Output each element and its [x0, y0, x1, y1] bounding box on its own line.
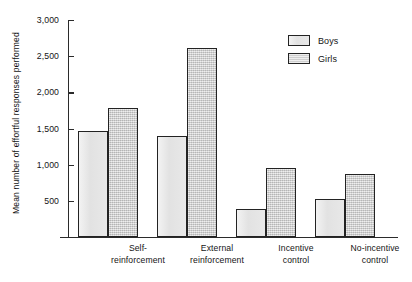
- legend-item-girls: Girls: [288, 51, 338, 66]
- y-axis-tick-label: 500: [44, 196, 59, 206]
- y-axis-tick-mark: [69, 165, 74, 166]
- bar-girls-3: [266, 168, 296, 237]
- y-axis-tick-mark: [69, 56, 74, 57]
- y-axis-tick-label: 1,500: [37, 124, 59, 134]
- legend-label: Girls: [318, 54, 337, 64]
- category-label-line: control: [311, 255, 412, 267]
- bar-boys-2: [157, 136, 187, 237]
- bar-girls-4: [345, 174, 375, 237]
- bar-boys-4: [315, 199, 345, 237]
- x-axis-line: [60, 237, 398, 238]
- plot-area: 5001,0001,5002,0002,5003,000 Self-reinfo…: [68, 20, 398, 237]
- y-axis-tick-label: 3,000: [37, 15, 59, 25]
- bar-boys-3: [236, 209, 266, 237]
- y-axis-tick-mark: [69, 201, 74, 202]
- legend-item-boys: Boys: [288, 33, 338, 48]
- legend-label: Boys: [318, 36, 338, 46]
- x-axis-category-label: No-incentivecontrol: [311, 243, 412, 266]
- bar-girls-1: [108, 108, 138, 237]
- y-axis-tick-mark: [69, 129, 74, 130]
- girls-swatch: [288, 53, 310, 64]
- y-axis-tick-label: 2,500: [37, 51, 59, 61]
- y-axis-tick-label: 1,000: [37, 160, 59, 170]
- y-axis-tick-mark: [69, 92, 74, 93]
- bar-boys-1: [78, 131, 108, 237]
- category-label-line: No-incentive: [311, 243, 412, 255]
- chart-legend: BoysGirls: [288, 33, 338, 69]
- y-axis-tick-mark: [69, 20, 74, 21]
- boys-swatch: [288, 35, 310, 46]
- bar-girls-2: [187, 48, 217, 238]
- bar-chart-figure: Mean number of effortful responses perfo…: [0, 0, 412, 282]
- y-axis-title: Mean number of effortful responses perfo…: [11, 8, 29, 238]
- y-axis-tick-label: 2,000: [37, 87, 59, 97]
